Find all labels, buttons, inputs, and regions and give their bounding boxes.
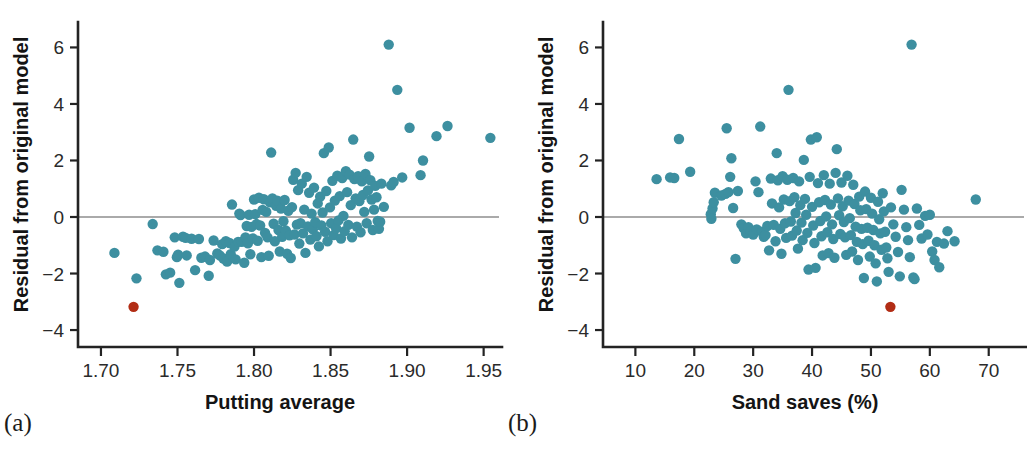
data-point <box>204 271 214 281</box>
data-point <box>245 249 255 259</box>
data-point <box>348 134 358 144</box>
data-point <box>905 252 915 262</box>
y-tick-label: −2 <box>42 264 64 285</box>
data-point <box>882 253 892 263</box>
data-point <box>753 187 763 197</box>
data-point <box>730 254 740 264</box>
data-point <box>895 271 905 281</box>
data-point <box>914 220 924 230</box>
data-point <box>415 170 425 180</box>
data-point <box>669 173 679 183</box>
data-point <box>805 172 815 182</box>
data-point <box>810 263 820 273</box>
data-point <box>934 262 944 272</box>
data-point <box>376 178 386 188</box>
data-point <box>442 121 452 131</box>
panel-b-caption: (b) <box>508 409 537 437</box>
data-point <box>886 202 896 212</box>
data-point <box>379 202 389 212</box>
data-point <box>872 276 882 286</box>
x-tick-label: 1.85 <box>312 360 349 381</box>
data-point <box>755 121 765 131</box>
data-point <box>706 214 716 224</box>
data-point <box>253 236 263 246</box>
data-point <box>829 253 839 263</box>
y-tick-label: 6 <box>53 37 64 58</box>
data-point <box>309 182 319 192</box>
x-tick-label: 1.90 <box>389 360 426 381</box>
data-point <box>819 170 829 180</box>
x-tick-label: 10 <box>625 360 646 381</box>
panel-a-scatter-chart: 6420−2−41.701.751.801.851.901.95Putting … <box>10 22 502 413</box>
data-point <box>343 220 353 230</box>
data-point <box>925 210 935 220</box>
data-point <box>355 227 365 237</box>
data-point <box>371 192 381 202</box>
data-point <box>733 186 743 196</box>
panel-a-caption: (a) <box>4 409 32 437</box>
y-tick-label: −2 <box>567 264 589 285</box>
data-point <box>883 267 893 277</box>
data-point <box>190 265 200 275</box>
data-point <box>890 232 900 242</box>
data-point <box>431 131 441 141</box>
x-tick-label: 30 <box>743 360 764 381</box>
panel-b-scatter-chart: 6420−2−410203040506070Sand saves (%)Resi… <box>535 22 1027 413</box>
data-point <box>364 151 374 161</box>
data-point <box>287 202 297 212</box>
data-point <box>397 172 407 182</box>
data-point <box>949 236 959 246</box>
data-point <box>794 176 804 186</box>
data-point <box>893 247 903 257</box>
data-point <box>321 186 331 196</box>
data-point <box>880 227 890 237</box>
x-tick-label: 1.75 <box>159 360 196 381</box>
data-point <box>870 258 880 268</box>
data-point <box>324 142 334 152</box>
data-point <box>909 274 919 284</box>
data-point <box>848 180 858 190</box>
data-point <box>783 85 793 95</box>
data-point <box>888 219 898 229</box>
y-tick-label: 4 <box>53 94 64 115</box>
data-point <box>685 167 695 177</box>
residual-plots-figure: 6420−2−41.701.751.801.851.901.95Putting … <box>0 0 1027 458</box>
x-axis-title: Sand saves (%) <box>732 391 879 413</box>
data-point <box>832 144 842 154</box>
y-tick-label: 4 <box>578 94 589 115</box>
data-point <box>896 185 906 195</box>
data-point <box>881 242 891 252</box>
y-tick-label: 2 <box>578 150 589 171</box>
data-point <box>878 188 888 198</box>
data-point <box>903 235 913 245</box>
data-point <box>404 123 414 133</box>
data-point <box>853 255 863 265</box>
highlighted-data-point <box>128 302 138 312</box>
x-tick-label: 70 <box>978 360 999 381</box>
data-point <box>674 134 684 144</box>
data-point <box>278 216 288 226</box>
data-point <box>799 155 809 165</box>
y-tick-label: −4 <box>567 320 589 341</box>
data-point <box>842 171 852 181</box>
data-point <box>194 234 204 244</box>
data-point <box>369 204 379 214</box>
data-point <box>158 247 168 257</box>
data-point <box>770 236 780 246</box>
data-point <box>942 226 952 236</box>
data-point <box>239 258 249 268</box>
y-tick-label: 2 <box>53 150 64 171</box>
axis-spine <box>78 22 502 347</box>
data-point <box>800 194 810 204</box>
data-point <box>772 148 782 158</box>
data-point <box>148 219 158 229</box>
y-axis-title: Residual from original model <box>10 37 32 313</box>
x-tick-label: 50 <box>860 360 881 381</box>
data-point <box>174 278 184 288</box>
y-tick-label: 0 <box>578 207 589 228</box>
highlighted-data-point <box>885 302 895 312</box>
data-point <box>109 248 119 258</box>
data-point <box>294 238 304 248</box>
data-point <box>906 39 916 49</box>
data-point <box>261 207 271 217</box>
